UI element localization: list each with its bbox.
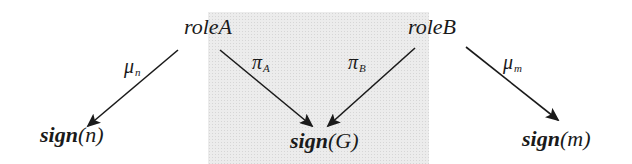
node-roleB: roleB	[408, 16, 456, 38]
edge-label-mu-m: μm	[503, 52, 522, 74]
edge-label-mu-n: μn	[124, 56, 141, 78]
mu-m-subscript: m	[514, 62, 522, 74]
node-sign-G: sign(G)	[290, 130, 358, 152]
edge-label-pi-B: πB	[348, 52, 366, 74]
mu-m-symbol: μ	[503, 51, 513, 73]
edge-label-pi-A: πA	[252, 52, 270, 74]
mu-n-symbol: μ	[124, 55, 134, 77]
pi-A-symbol: π	[252, 51, 262, 73]
sign-n-function: sign	[40, 122, 78, 147]
node-roleA: roleA	[184, 16, 232, 38]
sign-G-function: sign	[290, 128, 328, 153]
pi-A-subscript: A	[263, 62, 270, 74]
node-sign-n: sign(n)	[40, 124, 104, 146]
pi-B-symbol: π	[348, 51, 358, 73]
sign-m-argument: (m)	[560, 126, 591, 151]
mu-n-subscript: n	[135, 66, 141, 78]
node-roleA-label: roleA	[184, 14, 232, 39]
node-sign-m: sign(m)	[522, 128, 590, 150]
node-roleB-label: roleB	[408, 14, 456, 39]
pi-B-subscript: B	[359, 62, 366, 74]
sign-m-function: sign	[522, 126, 560, 151]
arrow-roleB-to-sign-G	[328, 48, 415, 126]
sign-G-argument: (G)	[328, 128, 359, 153]
sign-n-argument: (n)	[78, 122, 104, 147]
